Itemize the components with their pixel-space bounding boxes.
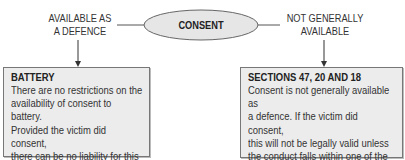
consent-label: CONSENT bbox=[165, 19, 237, 31]
battery-box-line: Provided the victim did consent, bbox=[11, 124, 143, 150]
left-branch-label: AVAILABLE AS A DEFENCE bbox=[40, 12, 119, 38]
right-branch-label-line1: NOT GENERALLY bbox=[283, 12, 367, 25]
right-branch-label-line2: AVAILABLE bbox=[283, 25, 367, 38]
right-branch-label: NOT GENERALLY AVAILABLE bbox=[283, 12, 367, 38]
battery-box-body: There are no restrictions on the availab… bbox=[11, 84, 143, 160]
battery-box-title: BATTERY bbox=[11, 71, 143, 84]
battery-box-line: There are no restrictions on the bbox=[11, 84, 143, 97]
left-branch-label-line2: A DEFENCE bbox=[40, 25, 119, 38]
sections-box-title: SECTIONS 47, 20 AND 18 bbox=[248, 71, 396, 84]
sections-box-body: Consent is not generally available as a … bbox=[248, 84, 396, 160]
sections-box-line: Consent is not generally available as bbox=[248, 84, 396, 110]
sections-box-line: this will not be legally valid unless bbox=[248, 137, 396, 150]
sections-box-line: the conduct falls within one of the bbox=[248, 150, 396, 160]
sections-box: SECTIONS 47, 20 AND 18 Consent is not ge… bbox=[240, 67, 403, 158]
left-branch-label-line1: AVAILABLE AS bbox=[40, 12, 119, 25]
sections-box-line: a defence. If the victim did consent, bbox=[248, 110, 396, 136]
battery-box-line: availability of consent to battery. bbox=[11, 97, 143, 123]
battery-box-line: there can be no liability for this bbox=[11, 150, 143, 160]
battery-box: BATTERY There are no restrictions on the… bbox=[3, 67, 150, 157]
